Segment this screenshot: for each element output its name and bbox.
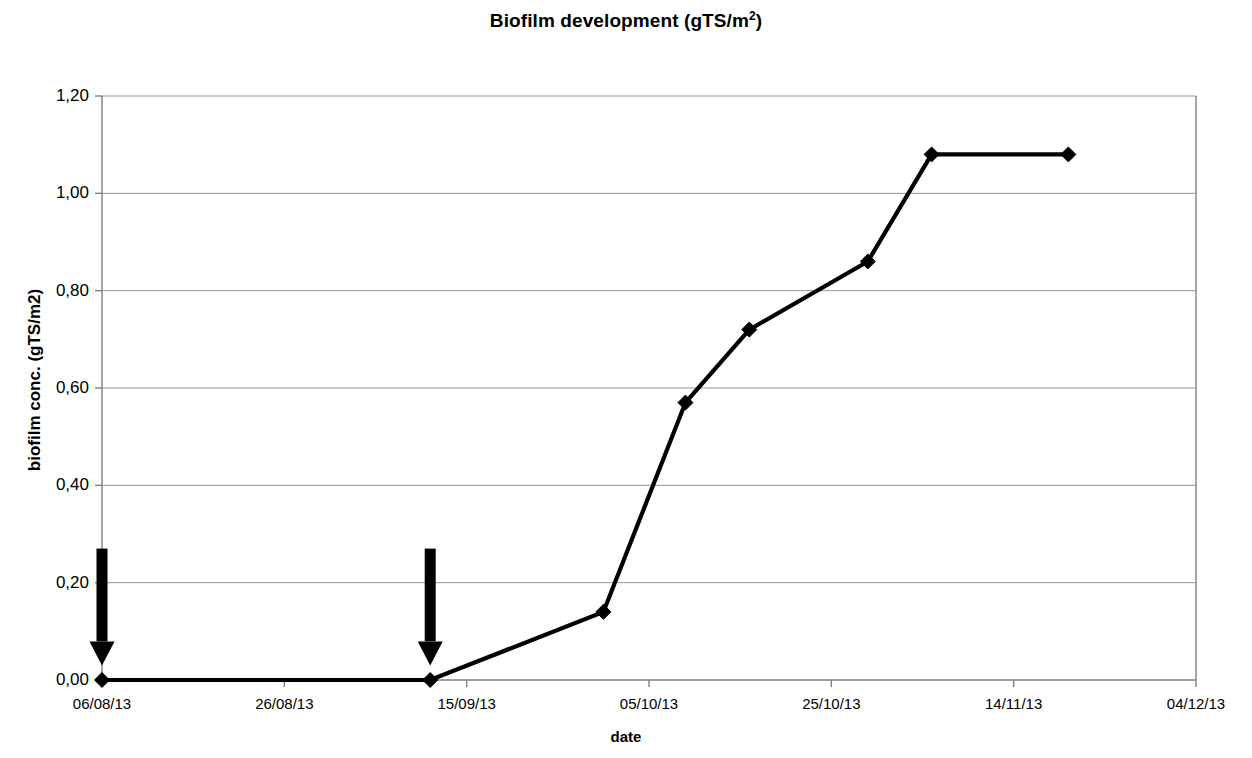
arrow-shaft — [425, 549, 436, 642]
data-point-marker — [423, 673, 438, 688]
gridline-group — [102, 96, 1196, 583]
data-series-group — [95, 147, 1076, 688]
plot-area — [0, 0, 1252, 758]
arrow-head-icon — [90, 641, 115, 665]
data-point-marker — [596, 604, 611, 619]
annotation-arrow-group — [90, 549, 443, 666]
data-point-marker — [95, 673, 110, 688]
arrow-head-icon — [418, 641, 443, 665]
chart-figure: Biofilm development (gTS/m2) biofilm con… — [0, 0, 1252, 758]
arrow-shaft — [97, 549, 108, 642]
data-point-marker — [1061, 147, 1076, 162]
tick-mark-group — [95, 96, 1196, 687]
series-line — [102, 154, 1068, 680]
